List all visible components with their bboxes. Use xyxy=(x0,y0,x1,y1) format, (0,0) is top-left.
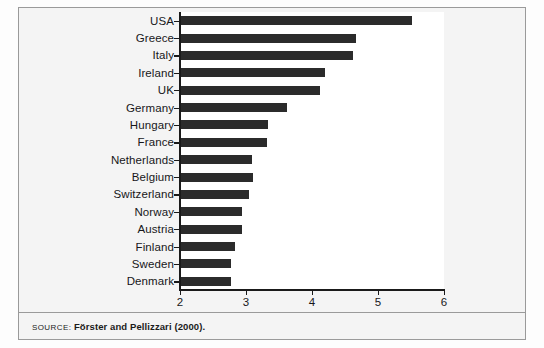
x-axis-tick xyxy=(246,290,247,295)
category-label: Austria xyxy=(30,223,174,235)
x-axis-tick xyxy=(378,290,379,295)
bar xyxy=(180,51,353,60)
y-axis-tick xyxy=(174,90,179,91)
source-label: SOURCE: xyxy=(32,323,71,332)
y-axis-tick xyxy=(174,247,179,248)
bar xyxy=(180,225,242,234)
y-axis-tick xyxy=(174,21,179,22)
category-label: Belgium xyxy=(30,171,174,183)
bar-chart: USAGreeceItalyIrelandUKGermanyHungaryFra… xyxy=(0,0,544,348)
category-label: Denmark xyxy=(30,275,174,287)
x-axis-tick xyxy=(444,290,445,295)
bar xyxy=(180,68,325,77)
category-axis-labels: USAGreeceItalyIrelandUKGermanyHungaryFra… xyxy=(30,12,174,290)
x-axis-tick-label: 6 xyxy=(434,296,454,308)
x-axis-tick-label: 4 xyxy=(302,296,322,308)
category-label: Greece xyxy=(30,32,174,44)
bar xyxy=(180,242,235,251)
bar xyxy=(180,190,249,199)
category-label: France xyxy=(30,136,174,148)
bar xyxy=(180,138,267,147)
figure-container: USAGreeceItalyIrelandUKGermanyHungaryFra… xyxy=(0,0,544,348)
category-label: Italy xyxy=(30,49,174,61)
y-axis-tick xyxy=(174,108,179,109)
bar xyxy=(180,16,412,25)
y-axis-tick xyxy=(174,160,179,161)
y-axis-tick xyxy=(174,264,179,265)
x-axis-tick xyxy=(180,290,181,295)
y-axis-tick xyxy=(174,73,179,74)
y-axis-line xyxy=(179,12,181,290)
bar xyxy=(180,173,253,182)
source-citation: Förster and Pellizzari (2000). xyxy=(74,321,205,332)
bar-series xyxy=(180,12,460,290)
category-label: Switzerland xyxy=(30,188,174,200)
y-axis-tick xyxy=(174,229,179,230)
category-label: Netherlands xyxy=(30,154,174,166)
bar xyxy=(180,103,287,112)
y-axis-tick xyxy=(174,142,179,143)
y-axis-tick xyxy=(174,38,179,39)
bar xyxy=(180,155,252,164)
bar xyxy=(180,277,231,286)
bar xyxy=(180,120,268,129)
category-label: Sweden xyxy=(30,258,174,270)
source-note: SOURCE: Förster and Pellizzari (2000). xyxy=(32,321,205,332)
y-axis-tick xyxy=(174,212,179,213)
category-label: Germany xyxy=(30,102,174,114)
bar xyxy=(180,34,356,43)
y-axis-tick xyxy=(174,194,179,195)
category-label: Finland xyxy=(30,241,174,253)
y-axis-tick xyxy=(174,177,179,178)
x-axis-tick-label: 3 xyxy=(236,296,256,308)
bar xyxy=(180,207,242,216)
bar xyxy=(180,259,231,268)
source-divider xyxy=(19,312,525,313)
x-axis-tick-label: 5 xyxy=(368,296,388,308)
x-axis-tick-label: 2 xyxy=(170,296,190,308)
category-label: Hungary xyxy=(30,119,174,131)
category-label: Norway xyxy=(30,206,174,218)
y-axis-tick xyxy=(174,55,179,56)
category-label: UK xyxy=(30,84,174,96)
category-label: USA xyxy=(30,15,174,27)
y-axis-tick xyxy=(174,281,179,282)
bar xyxy=(180,86,320,95)
x-axis-tick xyxy=(312,290,313,295)
y-axis-tick xyxy=(174,125,179,126)
category-label: Ireland xyxy=(30,67,174,79)
